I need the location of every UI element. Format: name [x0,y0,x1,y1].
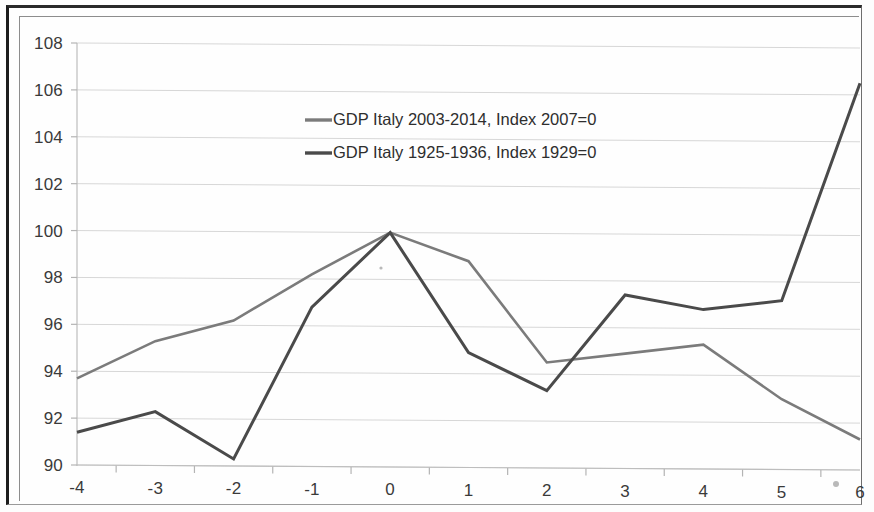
y-tick-label-92: 92 [44,409,63,428]
x-tick-label--2: -2 [226,479,242,498]
gridline-y-98 [77,277,860,282]
x-tick-label-0: 0 [385,480,395,499]
y-axis-tick-labels: 9092949698100102104106108 [34,34,63,475]
x-tick-label-4: 4 [699,482,709,501]
x-tick-label--1: -1 [304,480,320,499]
y-tick-label-100: 100 [34,222,63,241]
y-tick-label-98: 98 [44,268,63,287]
y-tick-label-108: 108 [34,34,63,53]
y-tick-label-90: 90 [44,456,63,475]
gridline-y-106 [77,90,860,95]
gridline-y-96 [77,324,860,329]
y-tick-label-102: 102 [34,175,63,194]
chart-legend: GDP Italy 2003-2014, Index 2007=0GDP Ita… [305,110,596,161]
scan-speck [379,266,382,269]
y-tick-label-96: 96 [44,315,63,334]
x-tick-label-1: 1 [464,481,474,500]
gridline-y-92 [77,418,860,423]
gridline-y-102 [77,184,860,189]
y-tick-label-94: 94 [44,362,63,381]
gridline-y-100 [77,231,860,236]
gridline-y-104 [77,137,860,142]
chart-svg: 9092949698100102104106108 -4-3-2-1012345… [0,0,874,512]
screenshot-root: 9092949698100102104106108 -4-3-2-1012345… [0,0,874,512]
x-tick-label-6: 6 [855,483,865,502]
x-tick-label-2: 2 [542,481,552,500]
series-line-0 [77,233,860,440]
gridlines [77,43,860,470]
x-axis-tick-labels: -4-3-2-10123456 [69,478,865,502]
legend-label-1: GDP Italy 1925-1936, Index 1929=0 [333,143,596,161]
y-tick-label-104: 104 [34,128,63,147]
x-tick-label--3: -3 [148,479,164,498]
x-tick-label--4: -4 [69,478,85,497]
y-axis-ticks [71,43,77,465]
y-tick-label-106: 106 [34,81,63,100]
legend-label-0: GDP Italy 2003-2014, Index 2007=0 [333,110,596,128]
gridline-y-108 [77,43,860,48]
x-axis [77,465,860,477]
gdp-comparison-chart: 9092949698100102104106108 -4-3-2-1012345… [0,0,874,512]
x-tick-label-5: 5 [777,483,787,502]
scan-speck-2 [833,481,839,487]
x-tick-label-3: 3 [620,482,630,501]
y-axis [71,43,77,466]
